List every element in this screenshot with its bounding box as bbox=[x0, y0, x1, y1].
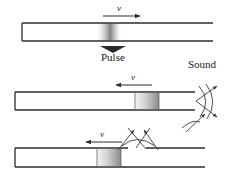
sound-pulse-diagram bbox=[0, 0, 232, 180]
sound-waves-panel3 bbox=[118, 114, 205, 150]
panel-2 bbox=[15, 84, 217, 119]
velocity-label-panel2: v bbox=[131, 73, 135, 82]
tube-panel2 bbox=[15, 92, 195, 110]
velocity-label-panel1: v bbox=[117, 4, 121, 13]
pulse-label: Pulse bbox=[101, 52, 125, 63]
pulse-block-panel3 bbox=[97, 149, 121, 167]
pulse-band-panel1 bbox=[96, 24, 122, 41]
sound-waves-panel2 bbox=[196, 84, 217, 119]
sound-label: Sound bbox=[188, 59, 216, 70]
pulse-block-panel2 bbox=[135, 93, 159, 110]
panel-3 bbox=[15, 114, 205, 167]
panel-1 bbox=[22, 16, 213, 53]
velocity-label-panel3: v bbox=[100, 130, 104, 139]
